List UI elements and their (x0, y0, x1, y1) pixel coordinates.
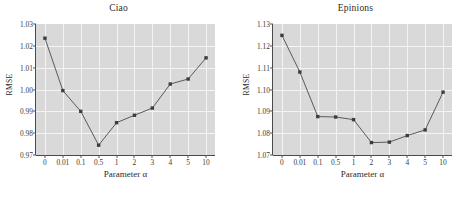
data-point-marker (151, 106, 154, 109)
x-axis-tick-label: 0.01 (293, 158, 306, 167)
panel-title: Ciao (0, 3, 237, 13)
data-point-marker (43, 36, 46, 39)
x-axis-tick-label: 10 (439, 158, 446, 167)
y-axis-tick-mark (270, 133, 273, 134)
x-axis-tick-mark (371, 155, 372, 158)
x-axis-tick-label: 10 (202, 158, 209, 167)
x-axis-tick-mark (281, 155, 282, 158)
data-point-marker (186, 77, 189, 80)
y-axis-tick-mark (270, 24, 273, 25)
data-point-marker (79, 110, 82, 113)
y-axis-tick-mark (33, 45, 36, 46)
y-axis-label: RMSE (242, 60, 251, 110)
x-axis-tick-mark (98, 155, 99, 158)
x-axis-tick-label: 2 (370, 158, 374, 167)
panel-epinions: Epinions RMSE Parameter α 1.071.081.091.… (237, 0, 474, 199)
x-axis-tick-mark (134, 155, 135, 158)
data-point-marker (406, 134, 409, 137)
x-axis-tick-mark (353, 155, 354, 158)
x-axis-tick-label: 1 (115, 158, 119, 167)
series-ciao (36, 24, 215, 155)
x-axis-tick-mark (80, 155, 81, 158)
x-axis-tick-mark (317, 155, 318, 158)
y-axis-label: RMSE (5, 60, 14, 110)
y-axis-tick-mark (33, 155, 36, 156)
x-axis-tick-label: 5 (423, 158, 427, 167)
x-axis-tick-mark (443, 155, 444, 158)
panel-title: Epinions (237, 3, 474, 13)
data-point-marker (370, 141, 373, 144)
x-axis-tick-mark (407, 155, 408, 158)
data-point-marker (204, 56, 207, 59)
x-axis-label: Parameter α (36, 169, 215, 179)
x-axis-tick-label: 0.5 (94, 158, 103, 167)
data-point-marker (97, 143, 100, 146)
data-point-marker (334, 115, 337, 118)
x-axis-tick-mark (335, 155, 336, 158)
x-axis-label: Parameter α (273, 169, 452, 179)
data-point-marker (316, 115, 319, 118)
x-axis-tick-mark (188, 155, 189, 158)
x-axis-tick-label: 0 (43, 158, 47, 167)
data-point-marker (388, 140, 391, 143)
figure-two-panel-line-charts: Ciao RMSE Parameter α 0.970.980.991.001.… (0, 0, 474, 199)
x-axis-tick-label: 0 (280, 158, 284, 167)
y-axis-tick-mark (270, 111, 273, 112)
y-axis-tick-mark (270, 45, 273, 46)
series-epinions (273, 24, 452, 155)
x-axis-tick-label: 5 (186, 158, 190, 167)
x-axis-tick-label: 0.1 (76, 158, 85, 167)
y-axis-tick-mark (33, 67, 36, 68)
panel-ciao: Ciao RMSE Parameter α 0.970.980.991.001.… (0, 0, 237, 199)
x-axis-tick-label: 4 (168, 158, 172, 167)
x-axis-tick-mark (62, 155, 63, 158)
data-point-marker (298, 70, 301, 73)
y-axis-tick-mark (33, 133, 36, 134)
y-axis-tick-mark (270, 155, 273, 156)
x-axis-tick-label: 3 (150, 158, 154, 167)
y-axis-tick-mark (33, 89, 36, 90)
x-axis-tick-mark (425, 155, 426, 158)
data-point-marker (169, 82, 172, 85)
data-line (45, 38, 206, 145)
data-point-marker (133, 114, 136, 117)
x-axis-tick-mark (389, 155, 390, 158)
plot-wrapper: RMSE Parameter α 0.970.980.991.001.011.0… (36, 24, 215, 155)
x-axis-tick-label: 0.01 (56, 158, 69, 167)
data-line (282, 35, 443, 142)
data-point-marker (352, 118, 355, 121)
plot-wrapper: RMSE Parameter α 1.071.081.091.101.111.1… (273, 24, 452, 155)
y-axis-tick-mark (270, 89, 273, 90)
y-axis-tick-mark (33, 24, 36, 25)
x-axis-tick-mark (299, 155, 300, 158)
data-point-marker (441, 90, 444, 93)
x-axis-tick-label: 3 (387, 158, 391, 167)
x-axis-tick-mark (170, 155, 171, 158)
data-point-marker (280, 34, 283, 37)
x-axis-tick-label: 0.5 (331, 158, 340, 167)
x-axis-tick-label: 4 (405, 158, 409, 167)
x-axis-tick-mark (116, 155, 117, 158)
x-axis-tick-label: 0.1 (313, 158, 322, 167)
y-axis-tick-mark (33, 111, 36, 112)
x-axis-tick-mark (44, 155, 45, 158)
x-axis-tick-label: 2 (133, 158, 137, 167)
x-axis-tick-mark (206, 155, 207, 158)
data-point-marker (61, 89, 64, 92)
x-axis-tick-mark (152, 155, 153, 158)
data-point-marker (423, 128, 426, 131)
x-axis-tick-label: 1 (352, 158, 356, 167)
y-axis-tick-mark (270, 67, 273, 68)
data-point-marker (115, 121, 118, 124)
